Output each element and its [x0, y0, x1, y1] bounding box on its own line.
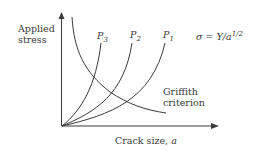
- p2-curve: [62, 43, 132, 126]
- x-axis-label: Crack size, a: [115, 135, 177, 146]
- y-axis-label: Applied stress: [18, 23, 55, 45]
- p1-label: P1: [163, 29, 174, 40]
- griffith-label-line1: Griffith: [163, 86, 205, 97]
- p3-curve: [62, 43, 101, 126]
- p2-label: P2: [130, 29, 141, 40]
- p1-curve: [62, 43, 165, 126]
- p3-label: P3: [97, 30, 108, 41]
- x-axis-arrow-icon: [211, 123, 219, 129]
- griffith-curve: [72, 17, 166, 113]
- y-axis-label-line1: Applied: [18, 23, 55, 34]
- griffith-label-line2: criterion: [163, 97, 205, 108]
- griffith-equation: σ = Y/a1/2: [196, 31, 243, 42]
- griffith-criterion-label: Griffith criterion: [163, 86, 205, 108]
- y-axis-label-line2: stress: [18, 34, 55, 45]
- y-axis-arrow-icon: [59, 12, 65, 19]
- griffith-diagram: Applied stress P3 P2 P1 σ = Y/a1/2 Griff…: [0, 0, 254, 156]
